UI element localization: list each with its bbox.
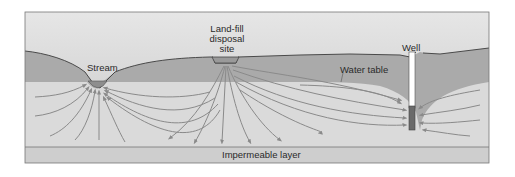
stream-label: Stream — [87, 63, 118, 73]
well-screen — [409, 106, 415, 130]
landfill-label-line3: site — [199, 44, 255, 54]
impermeable-layer-label: Impermeable layer — [222, 150, 301, 160]
well-casing — [409, 52, 415, 108]
well-label: Well — [402, 43, 420, 53]
landfill-site — [212, 57, 239, 63]
landfill-label: Land-fill disposal site — [199, 24, 255, 54]
water-table-label: Water table — [340, 65, 388, 75]
